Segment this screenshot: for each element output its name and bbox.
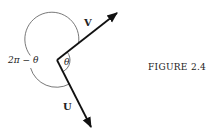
vector-v-label: V [84, 17, 92, 28]
vector-angle-figure: V U θ 2π − θ FIGURE 2.4 [0, 0, 224, 137]
outer-angle-label: 2π − θ [8, 55, 38, 65]
vector-u-arrow [57, 60, 91, 127]
theta-label: θ [64, 57, 69, 67]
vector-u-label: U [63, 101, 72, 112]
figure-caption: FIGURE 2.4 [148, 62, 206, 72]
